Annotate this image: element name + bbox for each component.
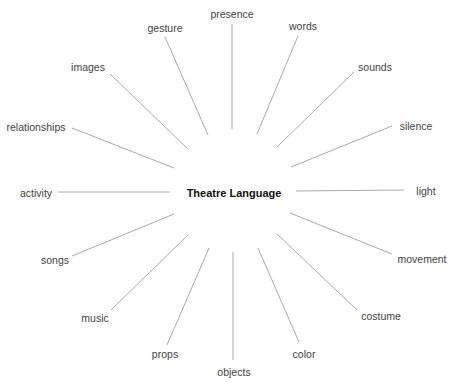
connector-line-light xyxy=(296,190,404,191)
node-label-words: words xyxy=(289,21,317,32)
node-label-gesture: gesture xyxy=(147,23,182,34)
node-label-activity: activity xyxy=(20,188,52,199)
connector-line-gesture xyxy=(165,37,208,135)
node-label-relationships: relationships xyxy=(7,122,66,133)
connector-line-words xyxy=(257,36,298,134)
connector-line-props xyxy=(167,248,209,345)
node-label-images: images xyxy=(71,62,105,73)
center-node-label: Theatre Language xyxy=(187,188,282,199)
node-label-songs: songs xyxy=(41,255,69,266)
connector-line-color xyxy=(258,248,299,342)
connector-line-images xyxy=(110,74,188,149)
node-label-props: props xyxy=(152,349,178,360)
connector-line-music xyxy=(111,235,188,310)
node-label-music: music xyxy=(81,313,108,324)
connector-line-songs xyxy=(72,214,174,256)
connector-line-relationships xyxy=(72,128,174,168)
connector-line-costume xyxy=(277,234,357,310)
node-label-silence: silence xyxy=(400,121,433,132)
node-label-objects: objects xyxy=(217,367,250,378)
theatre-language-diagram: Theatre Language presencewordssoundssile… xyxy=(0,0,456,384)
node-label-light: light xyxy=(416,186,435,197)
node-label-sounds: sounds xyxy=(358,62,392,73)
connector-line-sounds xyxy=(277,72,354,147)
connector-line-silence xyxy=(291,126,392,167)
node-label-color: color xyxy=(293,349,316,360)
connector-line-movement xyxy=(290,213,392,254)
node-label-presence: presence xyxy=(210,9,253,20)
node-label-movement: movement xyxy=(397,254,446,265)
node-label-costume: costume xyxy=(361,311,401,322)
